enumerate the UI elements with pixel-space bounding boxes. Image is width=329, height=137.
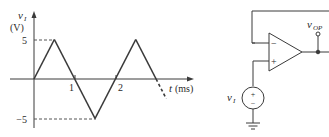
output-label-sub: OP: [313, 24, 323, 32]
x-axis-label-var: t: [169, 82, 173, 94]
source-plus-sign: +: [251, 90, 256, 99]
figure: v I (V) t (ms) 5 −5 1 2: [0, 0, 329, 137]
noninverting-input-sign: +: [271, 56, 277, 67]
x-tick-label-2: 2: [118, 82, 123, 93]
waveform-segment: [54, 40, 74, 80]
y-axis-unit: (V): [10, 22, 24, 34]
x-axis-arrow-icon: [187, 77, 194, 82]
input-label-sub: I: [232, 97, 236, 105]
inverting-input-sign: −: [271, 38, 277, 49]
noninverting-input-wire: [253, 61, 269, 86]
y-tick-label-neg: −5: [16, 114, 27, 125]
x-axis-unit: (ms): [175, 83, 193, 95]
waveform-segment: [136, 40, 156, 80]
waveform-segment: [115, 40, 135, 80]
waveform-segment: [95, 79, 115, 119]
x-tick-label-1: 1: [69, 82, 74, 93]
waveform-segment: [75, 79, 95, 119]
source-minus-sign: −: [251, 99, 256, 108]
waveform-segment: [34, 40, 54, 80]
output-terminal-icon: [316, 32, 320, 36]
output-label-var: v: [307, 18, 312, 30]
input-label-var: v: [227, 91, 232, 103]
y-axis-arrow-icon: [32, 11, 37, 18]
y-tick-label-pos: 5: [22, 35, 27, 46]
y-axis-label-var: v: [18, 9, 23, 21]
waveform-segment-dashed: [156, 79, 166, 99]
waveform-graph: v I (V) t (ms) 5 −5 1 2: [10, 9, 194, 128]
